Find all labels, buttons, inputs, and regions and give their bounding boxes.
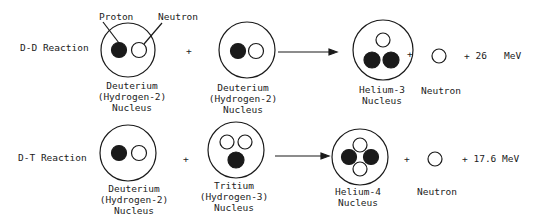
product-name: Helium-3	[359, 84, 405, 95]
reaction-arrow-head	[329, 49, 337, 55]
product-kind: Nucleus	[362, 95, 402, 106]
reactant1-kind: Nucleus	[114, 205, 154, 216]
plus-sign: +	[186, 45, 192, 56]
byproduct-name: Neutron	[417, 186, 457, 197]
product-kind: Nucleus	[338, 197, 378, 208]
reactant1-sub: (Hydrogen-2)	[98, 91, 167, 102]
proton-icon	[364, 150, 379, 165]
neutron-icon	[353, 138, 367, 152]
plus-sign: +	[183, 153, 189, 164]
proton-icon	[383, 52, 399, 68]
proton-icon	[112, 146, 127, 161]
product-name: Helium-4	[335, 186, 381, 197]
reactant2-kind: Nucleus	[214, 202, 254, 213]
free-neutron-icon	[432, 49, 446, 63]
helium4-nucleus	[332, 129, 388, 185]
neutron-icon	[132, 146, 147, 161]
helium3-nucleus	[353, 20, 413, 80]
energy-release: + 17.6 MeV	[462, 153, 519, 164]
dd-reaction-label: D-D Reaction	[20, 42, 89, 53]
reactant1-name: Deuterium	[106, 80, 157, 91]
reactant2-sub: (Hydrogen-2)	[209, 93, 278, 104]
proton-icon	[231, 44, 246, 59]
proton-icon	[228, 152, 244, 168]
neutron-icon	[353, 162, 367, 176]
reactant2-name: Tritium	[214, 180, 254, 191]
deuterium-nucleus-2	[219, 22, 275, 78]
byproduct-name: Neutron	[421, 85, 461, 96]
proton-icon	[364, 52, 380, 68]
neutron-callout-label: Neutron	[158, 11, 198, 22]
plus-sign: +	[404, 153, 410, 164]
energy-release: + 26 MeV	[464, 50, 521, 61]
neutron-icon	[376, 33, 390, 47]
reactant2-name: Deuterium	[217, 82, 268, 93]
reactant1-name: Deuterium	[108, 183, 159, 194]
tritium-nucleus	[208, 122, 264, 178]
fusion-diagram-graphics	[0, 0, 541, 224]
free-neutron-icon	[428, 152, 442, 166]
neutron-icon	[249, 44, 264, 59]
neutron-icon	[220, 135, 234, 149]
proton-callout-label: Proton	[99, 11, 133, 22]
proton-icon	[342, 150, 357, 165]
neutron-icon	[238, 135, 252, 149]
deuterium-nucleus-3	[100, 125, 156, 181]
neutron-icon	[132, 43, 147, 58]
reactant1-sub: (Hydrogen-2)	[100, 194, 169, 205]
reactant2-kind: Nucleus	[223, 104, 263, 115]
dt-reaction-label: D-T Reaction	[18, 152, 87, 163]
proton-icon	[112, 43, 127, 58]
reactant1-kind: Nucleus	[112, 102, 152, 113]
reaction-arrow-head	[321, 153, 329, 159]
reactant2-sub: (Hydrogen-3)	[200, 191, 269, 202]
plus-sign: +	[407, 48, 413, 59]
